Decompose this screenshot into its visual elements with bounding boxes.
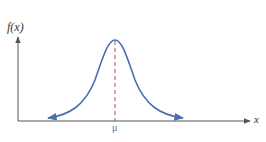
y-axis-label: f(x) (7, 21, 24, 33)
x-axis-label: x (254, 114, 259, 125)
mean-label: μ (112, 123, 117, 133)
normal-distribution-chart (0, 0, 266, 142)
